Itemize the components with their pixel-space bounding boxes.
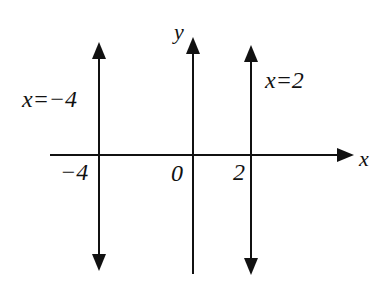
tick-label-2: 2 xyxy=(233,159,245,185)
tick-label-origin: 0 xyxy=(171,160,183,186)
arrow-up-icon xyxy=(244,45,258,62)
line-x-2-label: x=2 xyxy=(264,67,304,93)
line-x-neg4-label: x=−4 xyxy=(21,86,77,112)
arrow-up-icon xyxy=(92,42,106,59)
line-x-neg4: x=−4 xyxy=(21,42,106,271)
x-axis-label: x xyxy=(358,146,369,171)
x-axis: x xyxy=(50,146,369,171)
coordinate-plane: x y x=−4 x=2 −4 0 2 xyxy=(0,0,379,282)
y-axis: y xyxy=(172,19,200,274)
line-x-2: x=2 xyxy=(244,45,304,275)
arrow-down-icon xyxy=(92,254,106,271)
arrow-down-icon xyxy=(244,258,258,275)
tick-labels: −4 0 2 xyxy=(60,159,245,186)
y-axis-arrow-icon xyxy=(186,37,200,54)
x-axis-arrow-icon xyxy=(337,148,354,162)
y-axis-label: y xyxy=(172,19,184,44)
tick-label-neg4: −4 xyxy=(60,159,88,185)
